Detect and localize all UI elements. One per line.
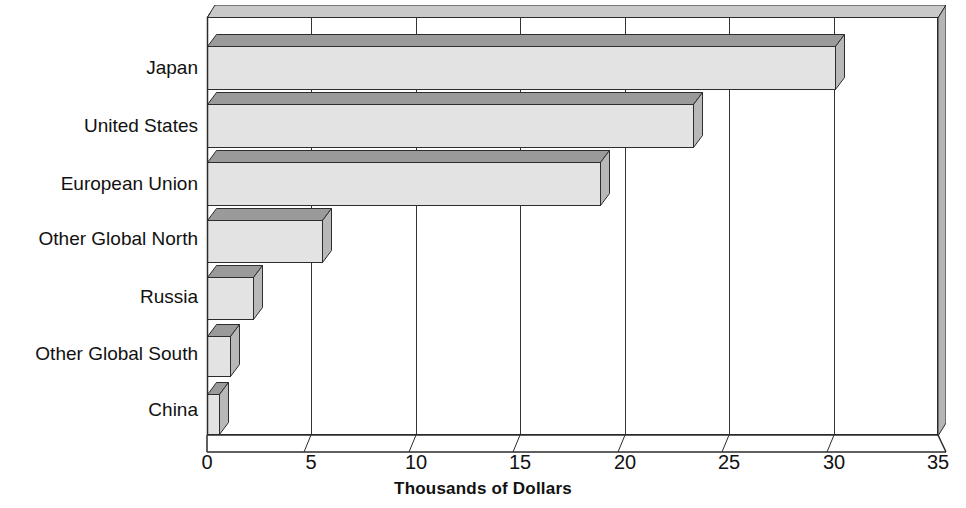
category-label-china: China — [0, 400, 198, 419]
bar-3d-body — [207, 34, 853, 90]
y-axis-line — [203, 13, 219, 439]
xtick-label-25: 25 — [718, 451, 740, 473]
bar-european-union — [207, 150, 618, 206]
plot-frame-right-face — [937, 5, 946, 436]
bar-japan — [207, 34, 853, 90]
xtick-label-15: 15 — [509, 451, 531, 473]
xtick-label-20: 20 — [614, 451, 636, 473]
xtick-label-10: 10 — [405, 451, 427, 473]
bar-3d-body — [207, 208, 340, 263]
xtick-label-35: 35 — [927, 451, 949, 473]
bar-chart: 0 5 10 15 20 25 30 35 Thousands of Dolla… — [0, 0, 966, 508]
xtick-label-30: 30 — [823, 451, 845, 473]
category-label-russia: Russia — [0, 287, 198, 306]
xtick-label-0: 0 — [201, 451, 212, 473]
x-axis-title: Thousands of Dollars — [0, 479, 966, 499]
category-label-european-union: European Union — [0, 174, 198, 193]
category-label-japan: Japan — [0, 58, 198, 77]
bar-3d-body — [207, 150, 618, 206]
category-label-other-global-south: Other Global South — [0, 344, 198, 363]
bar-united-states — [207, 92, 711, 148]
category-label-other-global-north: Other Global North — [0, 229, 198, 248]
category-label-united-states: United States — [0, 116, 198, 135]
bar-other-global-north — [207, 208, 340, 263]
xtick-label-5: 5 — [305, 451, 316, 473]
bar-3d-body — [207, 92, 711, 148]
